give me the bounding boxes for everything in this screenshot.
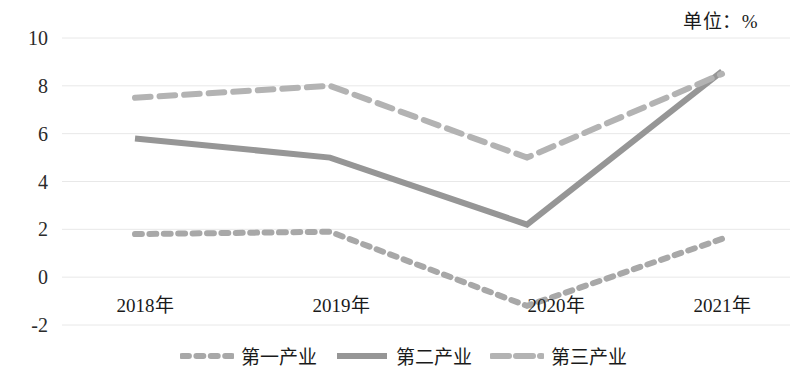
x-tick-label: 2018年 [117,290,174,317]
legend-label: 第一产业 [241,342,317,369]
line-chart: 单位：% 1086420-2 2018年2019年2020年2021年 第一产业… [0,0,806,375]
plot-area [0,0,806,375]
series-lines [135,71,722,305]
legend-label: 第二产业 [396,342,472,369]
y-tick-label: -2 [0,314,48,337]
legend-item-3[interactable]: 第三产业 [490,342,627,369]
y-tick-label: 8 [0,74,48,97]
y-tick-label: 4 [0,170,48,193]
legend-item-1[interactable]: 第一产业 [180,342,317,369]
x-tick-label: 2019年 [313,290,370,317]
legend-item-2[interactable]: 第二产业 [335,342,472,369]
y-tick-label: 2 [0,218,48,241]
legend-label: 第三产业 [551,342,627,369]
y-tick-label: 10 [0,27,48,50]
legend-swatch-dotted-icon [180,352,234,359]
legend-swatch-solid-icon [335,352,389,359]
y-tick-label: 0 [0,266,48,289]
x-tick-label: 2020年 [528,290,585,317]
series-line-1 [135,232,722,306]
legend-swatch-dashed-icon [490,352,544,359]
gridlines [62,38,790,325]
y-tick-label: 6 [0,122,48,145]
chart-legend: 第一产业第二产业第三产业 [0,342,806,369]
x-tick-label: 2021年 [694,290,751,317]
